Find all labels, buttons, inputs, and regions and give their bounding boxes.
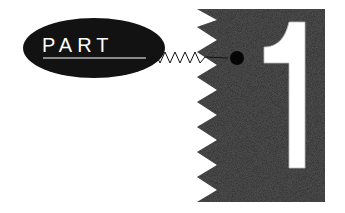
part-label: PART [42, 35, 114, 55]
part-title-page: PART [0, 0, 345, 213]
connector-dot [230, 51, 244, 65]
decorative-artwork [0, 0, 345, 213]
jagged-block [197, 9, 325, 202]
